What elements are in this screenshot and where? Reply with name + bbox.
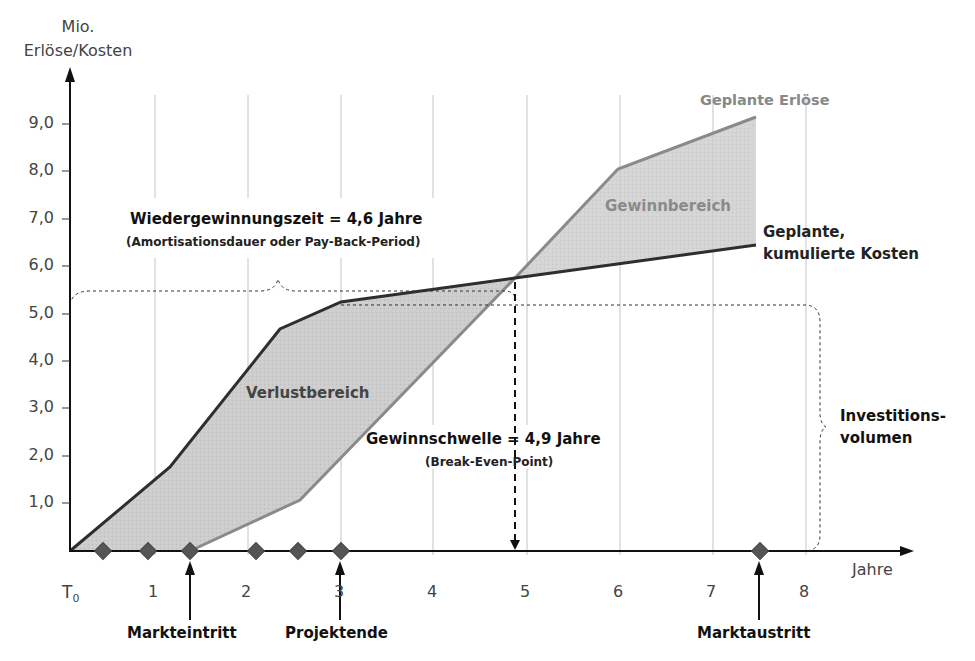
y-axis-arrow [65, 67, 75, 82]
payback-annotation-sub: (Amortisationsdauer oder Pay-Back-Period… [126, 235, 420, 249]
x-origin-label: T0 [62, 582, 79, 605]
y-axis-title-line1: Mio. [18, 16, 138, 38]
y-tick-label: 6,0 [8, 255, 54, 274]
y-ticks [62, 124, 70, 503]
x-tick-label: 4 [417, 582, 447, 601]
payback-annotation: Wiedergewinnungszeit = 4,6 Jahre [130, 210, 422, 228]
project-end-label: Projektende [285, 624, 388, 642]
x-axis-title: Jahre [852, 560, 893, 579]
investment-volume-label-line2: volumen [840, 427, 912, 449]
cost-series-label-line1: Geplante, [763, 221, 845, 243]
x-tick-label: 2 [231, 582, 261, 601]
market-exit-label: Marktaustritt [697, 624, 810, 642]
breakeven-annotation: Gewinnschwelle = 4,9 Jahre [366, 430, 601, 448]
gain-region-label: Gewinnbereich [605, 197, 731, 215]
market-entry-label: Markteintritt [127, 624, 237, 642]
label-mask [120, 198, 450, 258]
y-tick-label: 4,0 [8, 350, 54, 369]
x-tick-label: 5 [510, 582, 540, 601]
x-origin-sub: 0 [72, 592, 79, 605]
y-tick-label: 1,0 [8, 492, 54, 511]
x-tick-label: 8 [789, 582, 819, 601]
y-tick-label: 2,0 [8, 445, 54, 464]
y-tick-label: 8,0 [8, 160, 54, 179]
y-tick-label: 7,0 [8, 208, 54, 227]
x-tick-label: 6 [603, 582, 633, 601]
y-tick-label: 3,0 [8, 397, 54, 416]
x-tick-label: 3 [324, 582, 354, 601]
breakeven-arrowhead [510, 540, 520, 550]
y-tick-label: 9,0 [8, 113, 54, 132]
y-tick-label: 5,0 [8, 303, 54, 322]
event-arrows [185, 561, 764, 620]
cost-series-label-line2: kumulierte Kosten [763, 243, 919, 265]
x-tick-label: 1 [138, 582, 168, 601]
x-tick-label: 7 [696, 582, 726, 601]
x-axis-arrow [900, 546, 914, 556]
x-origin-t: T [62, 582, 72, 602]
investment-volume-label-line1: Investitions- [840, 405, 946, 427]
y-axis-title-line2: Erlöse/Kosten [18, 40, 138, 62]
breakeven-annotation-sub: (Break-Even-Point) [425, 455, 553, 469]
revenue-series-label: Geplante Erlöse [700, 92, 829, 108]
loss-region [70, 278, 515, 551]
loss-region-label: Verlustbereich [246, 384, 369, 402]
